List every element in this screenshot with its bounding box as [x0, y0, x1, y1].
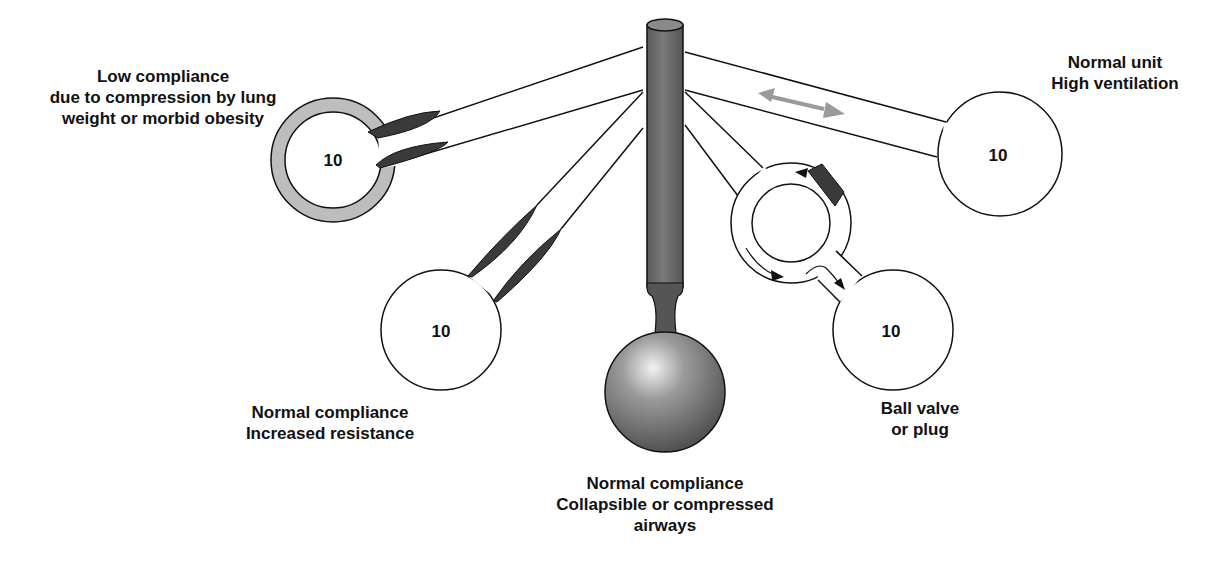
- label-line: Ball valve: [860, 398, 980, 419]
- unit-value: 10: [432, 322, 451, 341]
- unit-value: 10: [989, 146, 1008, 165]
- label-line: due to compression by lung: [8, 87, 318, 108]
- high-ventilation-label: Normal unit High ventilation: [1030, 52, 1200, 94]
- unit-value: 10: [882, 322, 901, 341]
- label-line: airways: [520, 515, 810, 536]
- label-line: Collapsible or compressed: [520, 494, 810, 515]
- label-line: Low compliance: [8, 66, 318, 87]
- low-compliance-label: Low compliance due to compression by lun…: [8, 66, 318, 129]
- increased-resistance-unit: 10: [381, 92, 643, 390]
- label-line: weight or morbid obesity: [8, 108, 318, 129]
- collapsible-airways-label: Normal compliance Collapsible or compres…: [520, 473, 810, 536]
- label-line: Normal unit: [1030, 52, 1200, 73]
- increased-resistance-label: Normal compliance Increased resistance: [220, 402, 440, 444]
- ball-valve-unit: 10: [685, 92, 953, 390]
- label-line: Normal compliance: [520, 473, 810, 494]
- collapsible-airway-sphere: [605, 332, 725, 452]
- label-line: Increased resistance: [220, 423, 440, 444]
- trachea-tube: [647, 19, 683, 333]
- unit-value: 10: [324, 151, 343, 170]
- label-line: or plug: [860, 419, 980, 440]
- label-line: Normal compliance: [220, 402, 440, 423]
- ball-valve-label: Ball valve or plug: [860, 398, 980, 440]
- label-line: High ventilation: [1030, 73, 1200, 94]
